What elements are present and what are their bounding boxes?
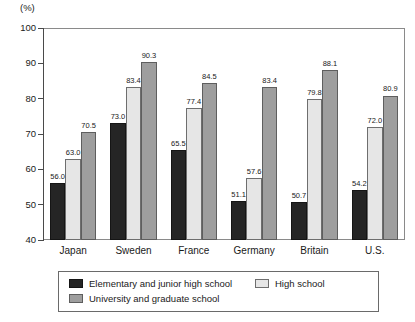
bar-value-label: 50.7 [287,192,311,200]
bar-value-label: 73.0 [106,113,130,121]
y-axis-label-80: 80 [6,94,36,104]
bars-layer [43,28,405,240]
bar-chart: (%) 100908070605040 56.063.070.573.083.4… [0,0,415,322]
bar-value-label: 80.9 [379,85,403,93]
category-label-germany: Germany [224,246,284,256]
legend-swatch-icon [69,294,83,303]
category-label-japan: Japan [43,246,103,256]
bar-value-label: 77.4 [182,98,206,106]
bar-britain-series1 [307,99,323,240]
bar-value-label: 79.8 [303,89,327,97]
bar-sweden-series0 [110,123,126,240]
bar-germany-series1 [246,178,262,240]
category-label-sweden: Sweden [103,246,163,256]
category-label-france: France [164,246,224,256]
y-axis-unit-label: (%) [20,2,35,13]
y-axis-label-100: 100 [6,23,36,33]
legend-label: High school [275,279,325,289]
bar-value-label: 83.4 [122,77,146,85]
bar-value-label: 83.4 [258,77,282,85]
y-axis-label-40: 40 [6,235,36,245]
legend-item-2: University and graduate school [69,294,219,304]
legend-swatch-icon [255,279,269,288]
bar-value-label: 90.3 [137,52,161,60]
chart-legend: Elementary and junior high schoolHigh sc… [58,271,379,312]
bar-japan-series1 [65,159,81,240]
category-label-britain: Britain [284,246,344,256]
bar-britain-series0 [291,202,307,240]
bar-us-series0 [352,190,368,240]
y-axis-label-60: 60 [6,164,36,174]
bar-value-label: 88.1 [318,60,342,68]
bar-value-label: 51.1 [227,191,251,199]
bar-value-label: 56.0 [46,173,70,181]
bar-value-label: 70.5 [77,122,101,130]
bar-germany-series2 [262,87,278,240]
legend-item-0: Elementary and junior high school [69,279,232,289]
legend-swatch-icon [69,279,83,288]
bar-value-label: 65.5 [167,140,191,148]
bar-sweden-series1 [126,87,142,240]
y-axis-label-90: 90 [6,58,36,68]
category-label-us: U.S. [345,246,405,256]
bar-france-series0 [171,150,187,240]
bar-value-label: 84.5 [198,73,222,81]
bar-value-label: 57.6 [242,168,266,176]
bar-germany-series0 [231,201,247,240]
bar-japan-series0 [50,183,66,240]
bar-value-label: 63.0 [61,149,85,157]
bar-value-label: 72.0 [363,117,387,125]
bar-france-series2 [202,83,218,240]
bar-sweden-series2 [141,62,157,240]
y-axis-label-70: 70 [6,129,36,139]
legend-label: Elementary and junior high school [89,279,232,289]
bar-value-label: 54.2 [348,180,372,188]
legend-item-1: High school [255,279,325,289]
y-axis-label-50: 50 [6,200,36,210]
bar-france-series1 [186,108,202,240]
legend-label: University and graduate school [89,294,219,304]
